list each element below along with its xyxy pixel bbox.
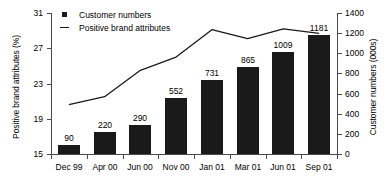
line-marker-icon: [60, 27, 69, 28]
legend-label-customer-numbers: Customer numbers: [79, 10, 151, 20]
chart-legend: Customer numbers Positive brand attribut…: [60, 8, 170, 34]
legend-label-positive-brand-attributes: Positive brand attributes: [79, 23, 170, 33]
square-marker-icon: [62, 12, 67, 17]
positive-brand-attributes-line: [69, 29, 319, 105]
legend-item-customer-numbers: Customer numbers: [60, 8, 170, 21]
legend-item-positive-brand-attributes: Positive brand attributes: [60, 21, 170, 34]
line-series: [0, 0, 389, 181]
chart-canvas: Positive brand attributes (%) Customer n…: [0, 0, 389, 181]
